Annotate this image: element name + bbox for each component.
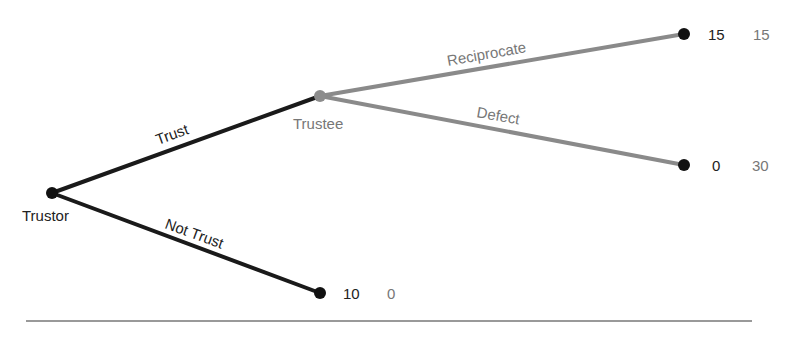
trustee-label: Trustee: [293, 115, 343, 132]
trustor-label: Trustor: [22, 207, 69, 224]
payoff-trustee-reciprocate: 15: [753, 26, 770, 43]
defect-edge-label: Defect: [475, 103, 521, 127]
edge-trust: [52, 96, 320, 193]
payoff-trustee-not-trust: 0: [387, 285, 395, 302]
terminal-node-defect: [678, 159, 690, 171]
trustee-node: [314, 90, 326, 102]
payoff-trustor-not-trust: 10: [343, 285, 360, 302]
trustor-node: [46, 187, 58, 199]
terminal-node-reciprocate: [678, 28, 690, 40]
payoff-trustee-defect: 30: [752, 157, 769, 174]
edge-defect: [320, 96, 684, 165]
payoff-trustor-reciprocate: 15: [708, 26, 725, 43]
payoff-trustor-defect: 0: [712, 157, 720, 174]
trust-game-tree: Trustor Trustee Trust Not Trust Reciproc…: [0, 0, 794, 339]
terminal-node-not-trust: [314, 287, 326, 299]
edge-not-trust: [52, 193, 320, 293]
